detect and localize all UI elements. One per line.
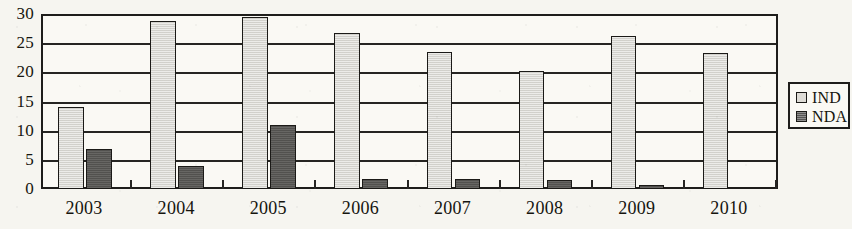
- legend-label-ind: IND: [812, 90, 841, 106]
- legend-item-nda: NDA: [796, 107, 848, 126]
- category-tick: [683, 180, 685, 189]
- category-tick: [499, 180, 501, 189]
- legend-item-ind: IND: [796, 88, 848, 107]
- y-tick-label: 15: [17, 93, 34, 110]
- bar-ind-2009[interactable]: [611, 36, 637, 189]
- bar-ind-2005[interactable]: [242, 17, 268, 189]
- y-tick-label: 20: [17, 63, 34, 80]
- bar-nda-2006[interactable]: [362, 179, 388, 189]
- y-tick-label: 10: [17, 122, 34, 139]
- category-tick: [407, 180, 409, 189]
- x-tick-label-2006: 2006: [342, 198, 379, 219]
- bar-nda-2008[interactable]: [547, 180, 573, 189]
- x-tick-label-2008: 2008: [526, 198, 563, 219]
- bar-ind-2006[interactable]: [334, 33, 360, 189]
- bar-ind-2007[interactable]: [427, 52, 453, 189]
- bar-group: [133, 14, 225, 189]
- y-axis: 051015202530: [0, 0, 41, 229]
- x-axis: 20032004200520062007200820092010: [41, 192, 778, 229]
- x-tick-label-2010: 2010: [710, 198, 747, 219]
- x-tick-label-2005: 2005: [250, 198, 287, 219]
- category-tick: [222, 180, 224, 189]
- legend-swatch-nda-icon: [796, 111, 807, 122]
- y-tick-label: 30: [17, 5, 34, 22]
- bar-group: [502, 14, 594, 189]
- bar-nda-2007[interactable]: [455, 179, 481, 189]
- bar-ind-2010[interactable]: [703, 53, 729, 189]
- legend-label-nda: NDA: [812, 109, 847, 125]
- bar-chart: 051015202530 200320042005200620072008200…: [0, 0, 852, 229]
- legend: IND NDA: [788, 82, 850, 129]
- x-tick-label-2004: 2004: [158, 198, 195, 219]
- category-tick: [591, 180, 593, 189]
- bar-group: [41, 14, 133, 189]
- y-tick-label: 0: [25, 180, 34, 197]
- bar-nda-2009[interactable]: [639, 185, 665, 189]
- bar-ind-2008[interactable]: [519, 71, 545, 189]
- bar-nda-2004[interactable]: [178, 166, 204, 189]
- category-tick: [130, 180, 132, 189]
- bar-ind-2004[interactable]: [150, 21, 176, 189]
- category-tick: [775, 180, 777, 189]
- bar-nda-2003[interactable]: [86, 149, 112, 189]
- y-tick-label: 5: [25, 151, 34, 168]
- bar-group: [317, 14, 409, 189]
- bar-group: [410, 14, 502, 189]
- legend-swatch-ind-icon: [796, 92, 807, 103]
- bar-ind-2003[interactable]: [58, 107, 84, 189]
- category-tick: [314, 180, 316, 189]
- y-tick-label: 25: [17, 34, 34, 51]
- bar-group: [594, 14, 686, 189]
- bar-group: [225, 14, 317, 189]
- x-tick-label-2007: 2007: [434, 198, 471, 219]
- x-tick-label-2009: 2009: [618, 198, 655, 219]
- x-tick-label-2003: 2003: [65, 198, 102, 219]
- bars-layer: [41, 14, 778, 189]
- bar-group: [686, 14, 778, 189]
- bar-nda-2005[interactable]: [270, 125, 296, 189]
